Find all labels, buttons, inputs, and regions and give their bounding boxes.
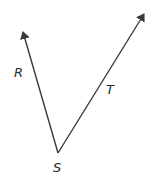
label-r: R: [14, 65, 23, 80]
label-s: S: [53, 160, 61, 175]
angle-diagram: R T S: [0, 0, 153, 182]
ray-st: [58, 14, 144, 153]
label-t: T: [106, 82, 115, 97]
ray-sr: [23, 32, 58, 153]
